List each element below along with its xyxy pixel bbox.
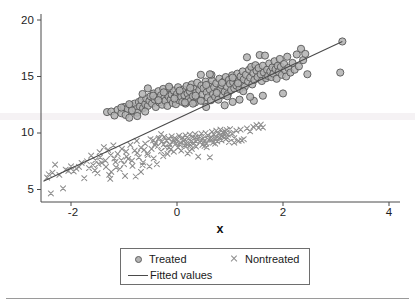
- x-tick-label-4: 4: [374, 206, 404, 218]
- legend-line-icon: [126, 275, 150, 276]
- y-tick-label-15: 15: [8, 70, 34, 82]
- figure-root: 20 15 10 5 -2 0 2 4 x Treated Nontreated…: [0, 0, 415, 308]
- scatter-plot: [0, 0, 415, 225]
- legend-label-treated: Treated: [149, 253, 187, 265]
- x-axis-title: x: [190, 222, 250, 236]
- axis-ticks: [37, 20, 389, 206]
- legend-circle-icon: [127, 256, 149, 263]
- x-tick-label-2: 2: [268, 206, 298, 218]
- legend-label-nontreated: Nontreated: [245, 253, 299, 265]
- legend-entry-fitted-values[interactable]: Fitted values: [126, 269, 212, 281]
- x-tick-label-0: 0: [162, 206, 192, 218]
- legend-label-fitted-values: Fitted values: [150, 269, 212, 281]
- x-tick-label-neg2: -2: [58, 206, 88, 218]
- legend-entry-nontreated[interactable]: Nontreated: [223, 253, 299, 265]
- y-tick-label-10: 10: [8, 126, 34, 138]
- legend-cross-icon: [223, 255, 245, 263]
- series-nontreated: [45, 122, 266, 196]
- y-tick-label-20: 20: [8, 14, 34, 26]
- legend-box: Treated Nontreated Fitted values: [120, 248, 310, 285]
- series-treated: [103, 38, 346, 121]
- plot-canvas: [0, 0, 415, 225]
- y-tick-label-5: 5: [8, 183, 34, 195]
- fitted-values-line: [43, 41, 342, 181]
- bottom-divider: [6, 298, 409, 299]
- legend-entry-treated[interactable]: Treated: [127, 253, 187, 265]
